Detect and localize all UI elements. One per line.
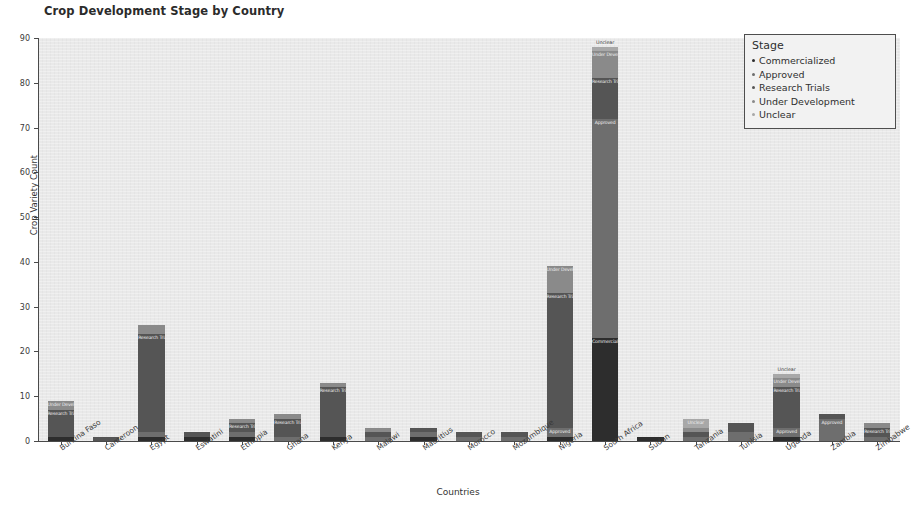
legend-title: Stage [752, 39, 889, 53]
bar-segment-research-trials[interactable]: Research Trials [320, 387, 346, 436]
bar-top-label: Unclear [763, 367, 809, 373]
bar-segment-under-development[interactable]: Under Development [547, 266, 573, 293]
bar-segment-label: Approved [547, 429, 573, 434]
legend-swatch-icon [752, 59, 755, 62]
y-tick-label: 30 [4, 303, 30, 312]
bar-segment-under-development[interactable] [138, 325, 164, 334]
y-tick-label: 80 [4, 79, 30, 88]
legend-swatch-icon [752, 73, 755, 76]
bar-segment-research-trials[interactable]: Research Trials [48, 410, 74, 437]
bar-egypt[interactable]: Research Trials [138, 325, 164, 441]
bar-segment-research-trials[interactable]: Research Trials [547, 293, 573, 427]
bar-segment-under-development[interactable]: Under Development [48, 401, 74, 410]
legend-items: CommercializedApprovedResearch TrialsUnd… [752, 54, 889, 122]
y-tick-label: 60 [4, 168, 30, 177]
bar-kenya[interactable]: Research Trials [320, 383, 346, 441]
bar-segment-label: Under Development [773, 379, 799, 384]
legend-swatch-icon [752, 100, 755, 103]
bar-segment-under-development[interactable] [683, 428, 709, 432]
bar-segment-research-trials[interactable]: Research Trials [773, 387, 799, 427]
y-tick-label: 0 [4, 437, 30, 446]
legend-item-label: Research Trials [759, 81, 830, 95]
y-tick-label: 90 [4, 34, 30, 43]
bar-segment-under-development[interactable]: Under Development [773, 378, 799, 387]
legend-item-label: Commercialized [759, 54, 835, 68]
bar-segment-under-development[interactable] [229, 419, 255, 423]
legend-swatch-icon [752, 113, 755, 116]
bar-segment-label: Research Trials [547, 294, 573, 299]
bar-segment-label: Research Trials [864, 429, 890, 434]
chart-title: Crop Development Stage by Country [44, 4, 284, 18]
bar-nigeria[interactable]: ApprovedResearch TrialsUnder Development [547, 266, 573, 441]
bar-segment-label: Unclear [683, 420, 709, 425]
bar-segment-under-development[interactable] [365, 428, 391, 432]
legend[interactable]: Stage CommercializedApprovedResearch Tri… [744, 34, 896, 129]
y-tick-label: 10 [4, 392, 30, 401]
bar-segment-label: Research Trials [274, 420, 300, 425]
bar-segment-under-development[interactable] [320, 383, 346, 387]
legend-item-commercialized[interactable]: Commercialized [752, 54, 889, 68]
bar-segment-under-development[interactable] [864, 423, 890, 427]
bar-segment-label: Under Development [592, 52, 618, 57]
legend-item-label: Unclear [759, 108, 795, 122]
y-tick-label: 20 [4, 347, 30, 356]
bar-segment-research-trials[interactable]: Research Trials [274, 419, 300, 437]
bar-segment-under-development[interactable]: Under Development [592, 51, 618, 78]
bar-segment-label: Research Trials [48, 411, 74, 416]
bar-burkina-faso[interactable]: Research TrialsUnder Development [48, 401, 74, 441]
bar-segment-label: Research Trials [320, 388, 346, 393]
bar-south-africa[interactable]: CommercializedApprovedResearch TrialsUnd… [592, 47, 618, 441]
x-axis-title: Countries [0, 487, 916, 497]
legend-item-research-trials[interactable]: Research Trials [752, 81, 889, 95]
bar-segment-under-development[interactable] [274, 414, 300, 418]
legend-item-unclear[interactable]: Unclear [752, 108, 889, 122]
legend-item-under-development[interactable]: Under Development [752, 95, 889, 109]
bar-segment-research-trials[interactable]: Research Trials [229, 423, 255, 432]
bar-uganda[interactable]: ApprovedResearch TrialsUnder Development… [773, 374, 799, 441]
bar-segment-unclear[interactable] [592, 47, 618, 51]
bar-segment-label: Research Trials [773, 388, 799, 393]
bar-segment-unclear[interactable]: Unclear [683, 419, 709, 428]
bar-segment-label: Approved [592, 120, 618, 125]
bar-segment-label: Research Trials [229, 424, 255, 429]
legend-item-label: Approved [759, 68, 805, 82]
bar-segment-research-trials[interactable]: Research Trials [592, 78, 618, 118]
bar-segment-research-trials[interactable] [410, 428, 436, 432]
bar-segment-unclear[interactable] [773, 374, 799, 378]
bar-top-label: Unclear [582, 40, 628, 46]
legend-item-label: Under Development [759, 95, 855, 109]
y-tick-label: 40 [4, 258, 30, 267]
bar-segment-label: Under Development [547, 267, 573, 272]
y-tick-mark [34, 441, 38, 442]
bar-segment-commercialized[interactable]: Commercialized [592, 338, 618, 441]
legend-swatch-icon [752, 86, 755, 89]
bar-segment-label: Approved [773, 429, 799, 434]
y-tick-label: 50 [4, 213, 30, 222]
chart-screenshot: Crop Development Stage by Country 010203… [0, 0, 916, 507]
bar-segment-research-trials[interactable] [728, 423, 754, 432]
bar-segment-label: Approved [819, 420, 845, 425]
legend-item-approved[interactable]: Approved [752, 68, 889, 82]
bar-segment-research-trials[interactable]: Research Trials [138, 334, 164, 433]
bar-segment-label: Research Trials [138, 335, 164, 340]
y-tick-label: 70 [4, 124, 30, 133]
bar-segment-label: Under Development [48, 402, 74, 407]
bar-segment-label: Research Trials [592, 79, 618, 84]
bar-segment-research-trials[interactable] [819, 414, 845, 418]
bar-segment-label: Commercialized [592, 339, 618, 344]
bar-segment-approved[interactable]: Approved [592, 119, 618, 338]
